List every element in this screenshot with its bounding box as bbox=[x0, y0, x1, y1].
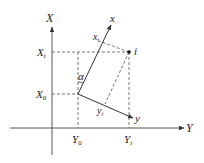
angle-alpha-label: α bbox=[78, 70, 84, 82]
tick-label-Yi: Yi bbox=[124, 133, 132, 147]
tick-label-X0: X0 bbox=[35, 88, 47, 102]
global-y-axis-label: Y bbox=[186, 121, 194, 135]
coordinate-diagram: X Y x y Xi X0 Y0 Yi i α xi yi bbox=[0, 0, 204, 163]
global-x-axis-label: X bbox=[45, 11, 54, 25]
point-i-label: i bbox=[134, 45, 137, 57]
dashed-guides bbox=[52, 41, 129, 128]
angle-arc bbox=[78, 82, 83, 83]
local-y-axis bbox=[78, 94, 133, 118]
tick-label-Y0: Y0 bbox=[72, 133, 82, 147]
local-x-axis-label: x bbox=[109, 12, 115, 24]
tick-label-Xi: Xi bbox=[36, 46, 46, 60]
point-i bbox=[127, 50, 131, 54]
local-coord-xi-label: xi bbox=[92, 31, 99, 43]
local-y-axis-label: y bbox=[134, 112, 140, 124]
local-coord-yi-label: yi bbox=[96, 105, 103, 117]
